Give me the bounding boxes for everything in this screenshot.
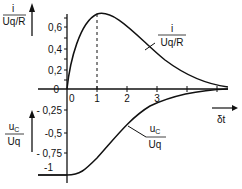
x-tick-1: 1 <box>94 93 100 104</box>
bottom-ylabel-num: uC <box>9 121 20 133</box>
voltage-curve-label-den: Uq <box>149 139 162 150</box>
y-tick-m0-5: -0,5 <box>45 128 63 139</box>
y-tick-0: 0 <box>53 84 59 95</box>
chart-canvas: i Uq/R 0,6 0,4 0,2 0 0 1 2 3 δt i Uq/R -… <box>0 0 242 189</box>
y-tick-0-2: 0,2 <box>48 65 62 76</box>
bottom-ylabel-den: Uq <box>8 136 21 147</box>
top-ylabel-den: Uq/R <box>3 16 26 27</box>
x-arrow-icon <box>232 105 238 111</box>
y-tick-0-6: 0,6 <box>48 22 62 33</box>
voltage-curve-label-num: uC <box>150 123 161 135</box>
x-axis-label: δt <box>217 114 226 125</box>
top-ylabel-num: i <box>12 3 14 14</box>
y-tick-m0-25: - 0,25 <box>36 105 62 116</box>
y-tick-m1: -1 <box>44 162 53 173</box>
y-tick-0-4: 0,4 <box>48 44 62 55</box>
current-curve <box>67 13 228 89</box>
x-tick-3: 3 <box>154 93 160 104</box>
x-tick-2: 2 <box>124 93 130 104</box>
y-tick-m0-75: - 0,75 <box>36 148 62 159</box>
current-curve-label-den: Uq/R <box>161 37 184 48</box>
x-tick-0: 0 <box>69 93 75 104</box>
top-y-arrow-icon <box>29 3 35 12</box>
bottom-y-arrow-icon <box>29 110 35 118</box>
current-curve-label-num: i <box>171 23 173 34</box>
